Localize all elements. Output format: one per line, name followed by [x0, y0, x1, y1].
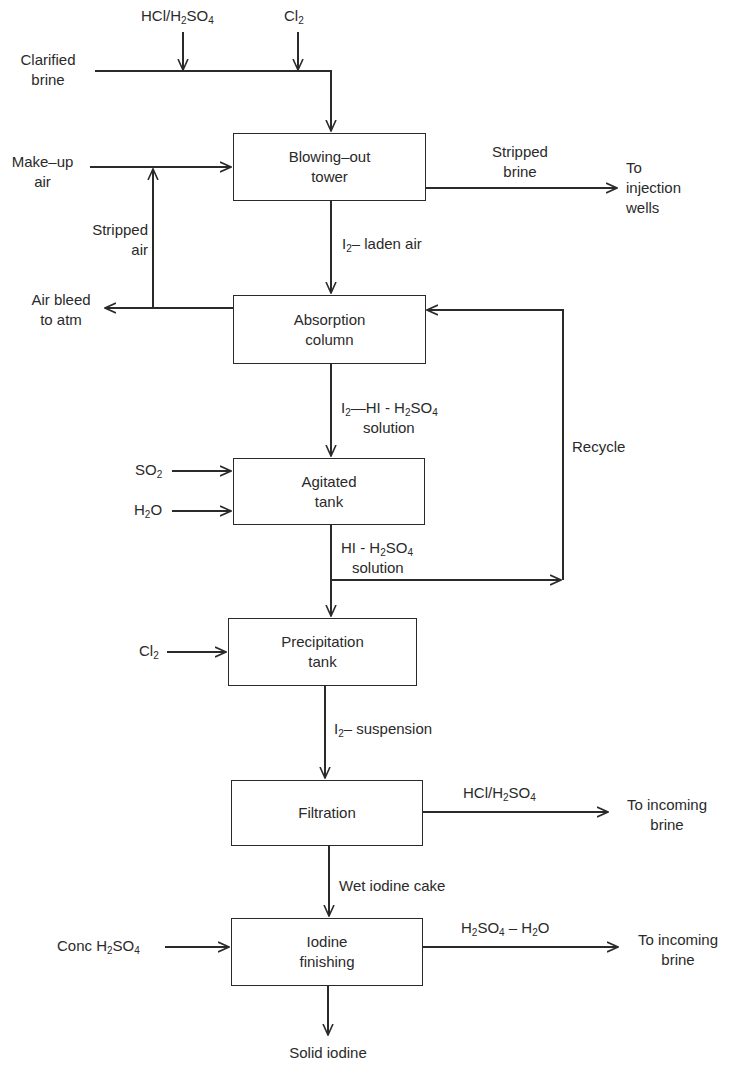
- absorption-column-box: Absorptioncolumn: [233, 295, 426, 364]
- h2o-label: H2O: [134, 500, 162, 520]
- i2-laden-air-label: I2– laden air: [342, 234, 422, 254]
- filtration-box: Filtration: [231, 780, 423, 846]
- wet-iodine-cake-label: Wet iodine cake: [339, 876, 445, 896]
- unit-label: Filtration: [298, 803, 356, 823]
- to-incoming-brine-2-label: To incomingbrine: [622, 930, 734, 970]
- unit-label: Blowing–out: [289, 147, 371, 167]
- unit-label: finishing: [299, 952, 354, 972]
- recycle-line: [427, 310, 563, 580]
- agitated-tank-box: Agitatedtank: [233, 458, 425, 525]
- clarified-brine-line: [95, 71, 331, 131]
- stripped-brine-label: Strippedbrine: [475, 142, 565, 182]
- unit-label: Absorption: [294, 310, 366, 330]
- so2-label: SO2: [135, 460, 162, 480]
- clarified-brine-label: Clarifiedbrine: [8, 50, 88, 90]
- unit-label: column: [294, 330, 366, 350]
- i2-suspension-label: I2– suspension: [334, 719, 432, 739]
- stripped-air-label: Strippedair: [60, 220, 148, 260]
- makeup-air-label: Make–upair: [0, 152, 85, 192]
- acid-feed-label: HCl/H2SO4: [141, 6, 214, 26]
- h2so4-h2o-label: H2SO4 – H2O: [461, 918, 549, 938]
- hi-h2so4-label: HI - H2SO4 solution: [341, 538, 413, 578]
- conc-h2so4-label: Conc H2SO4: [57, 936, 140, 956]
- unit-label: tank: [301, 492, 356, 512]
- i2-hi-h2so4-label: I2—HI - H2SO4 solution: [341, 398, 438, 438]
- cl2-top-label: Cl2: [284, 6, 304, 26]
- unit-label: Agitated: [301, 472, 356, 492]
- recycle-label: Recycle: [572, 437, 625, 457]
- iodine-finishing-box: Iodinefinishing: [231, 918, 423, 986]
- precipitation-tank-box: Precipitationtank: [228, 618, 417, 686]
- unit-label: Precipitation: [281, 632, 364, 652]
- unit-label: tank: [281, 652, 364, 672]
- to-incoming-brine-1-label: To incomingbrine: [612, 795, 722, 835]
- blowing-out-tower-box: Blowing–outtower: [233, 133, 426, 201]
- cl2-precip-label: Cl2: [139, 641, 159, 661]
- solid-iodine-label: Solid iodine: [268, 1043, 388, 1063]
- unit-label: tower: [289, 167, 371, 187]
- unit-label: Iodine: [299, 932, 354, 952]
- air-bleed-label: Air bleedto atm: [16, 290, 106, 330]
- filtrate-acid-label: HCl/H2SO4: [463, 783, 536, 803]
- to-injection-wells-label: Toinjectionwells: [626, 158, 681, 218]
